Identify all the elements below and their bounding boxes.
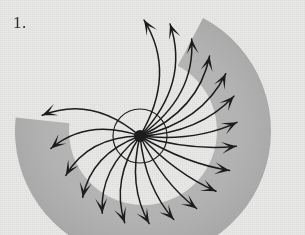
- arrow-head: [42, 104, 58, 115]
- figure-number-label: 1.: [13, 13, 27, 33]
- radial-arrow-diagram: [0, 0, 305, 235]
- arrow-shaft: [140, 20, 160, 136]
- origin-hub: [134, 130, 146, 142]
- figure-container: 1.: [0, 0, 305, 235]
- arrow-head: [169, 24, 180, 40]
